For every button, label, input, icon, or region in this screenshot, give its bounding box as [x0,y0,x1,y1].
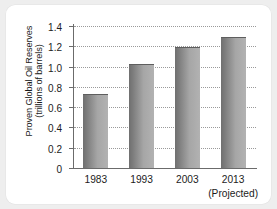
bar [221,37,246,168]
y-axis-title-line-2: (trillions of barrels) [34,44,44,117]
y-tick-label: 1.2 [48,42,62,53]
y-tick-mark: 1.4 [69,26,74,27]
y-axis-title-line-1: Proven Global Oil Reserves [24,26,34,137]
x-tick-label: 2003 [176,174,199,185]
x-tick-group: 1983 [85,174,108,185]
bar [83,94,108,168]
y-tick-mark: 0 [69,168,74,169]
y-tick-label: 0.6 [48,103,62,114]
bar [175,47,200,168]
y-tick-label: 0 [56,164,62,175]
x-tick-group: 1993 [130,174,153,185]
y-tick-mark: 0.2 [69,148,74,149]
x-tick-group: 2013(Projected) [208,174,258,199]
x-tick-group: 2003 [176,174,199,185]
y-tick-mark: 0.6 [69,107,74,108]
x-tick-label: 1983 [85,174,108,185]
x-tick-sublabel: (Projected) [208,188,258,199]
y-tick-label: 0.4 [48,123,62,134]
y-tick-label: 0.2 [48,143,62,154]
y-tick-mark: 1.0 [69,67,74,68]
x-tick-label: 2013 [208,174,258,185]
y-tick-mark: 1.2 [69,46,74,47]
chart-card: Proven Global Oil Reserves (trillions of… [6,5,271,204]
bar [129,64,154,168]
y-axis-title: Proven Global Oil Reserves (trillions of… [20,6,48,156]
x-tick-label: 1993 [130,174,153,185]
y-tick-mark: 0.4 [69,127,74,128]
gridline [74,26,256,27]
y-tick-label: 1.0 [48,62,62,73]
y-tick-label: 0.8 [48,82,62,93]
plot-area: 1.41.21.00.80.60.40.20 1983199320032013(… [73,26,256,168]
y-tick-mark: 0.8 [69,87,74,88]
y-tick-label: 1.4 [48,22,62,33]
